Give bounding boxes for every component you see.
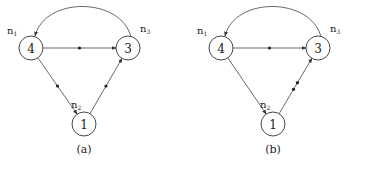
node-label: 1: [80, 118, 88, 132]
node-n1: 4 n1: [197, 25, 233, 60]
node-name: n2: [71, 99, 81, 111]
caption: (a): [76, 143, 91, 156]
node-label: 4: [217, 42, 225, 56]
node-n1: 4 n1: [7, 25, 43, 60]
token-dot: [56, 84, 59, 87]
node-label: 3: [314, 42, 322, 56]
node-label: 4: [27, 42, 35, 56]
node-name: n1: [197, 25, 207, 37]
node-name: n2: [260, 99, 270, 111]
node-name: n3: [140, 23, 150, 35]
edge-n3-n1: [35, 6, 131, 37]
token-dot: [268, 46, 271, 49]
token-dot: [296, 81, 299, 84]
node-n3: 3 n3: [116, 23, 150, 60]
node-n2: 1 n2: [71, 99, 96, 136]
node-name: n3: [330, 23, 340, 35]
node-label: 1: [269, 118, 277, 132]
edge-n3-n1: [225, 6, 321, 37]
diagram-b: 4 n1 3 n3 1 n2 (b): [197, 6, 340, 156]
node-name: n1: [7, 25, 17, 37]
node-label: 3: [124, 42, 132, 56]
diagram-a: 4 n1 3 n3 1 n2 (a): [7, 6, 150, 156]
node-n2: 1 n2: [260, 99, 285, 136]
caption: (b): [265, 143, 281, 156]
edge-n2-n3: [279, 58, 312, 113]
token-dot: [104, 84, 107, 87]
diagram-canvas: 4 n1 3 n3 1 n2 (a) 4 n1 3 n3 1: [0, 0, 378, 169]
token-dot: [292, 88, 295, 91]
edges: [225, 6, 321, 114]
token-dot: [78, 46, 81, 49]
node-n3: 3 n3: [306, 23, 340, 60]
edges: [35, 6, 131, 114]
